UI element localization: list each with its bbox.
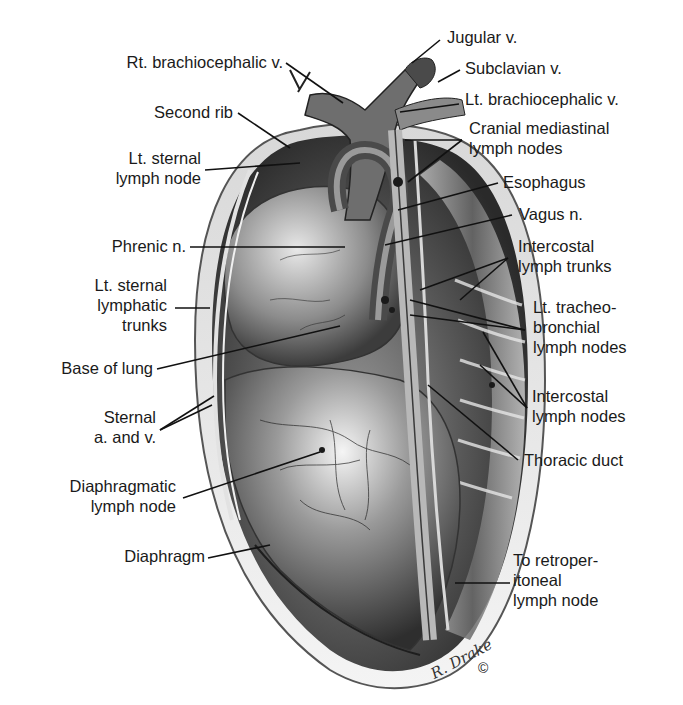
label-lt-sternal-lymphatic-trunks: Lt. sternal lymphatic trunks [95, 275, 167, 335]
label-diaphragmatic-lymph-node: Diaphragmatic lymph node [70, 476, 176, 516]
label-jugular-v: Jugular v. [447, 27, 517, 47]
label-second-rib: Second rib [154, 102, 233, 122]
label-lt-tracheobronchial-lymph-nodes: Lt. tracheo- bronchial lymph nodes [533, 297, 627, 357]
label-subclavian-v: Subclavian v. [465, 58, 562, 78]
copyright-mark: © [478, 658, 488, 678]
label-intercostal-lymph-nodes: Intercostal lymph nodes [532, 386, 626, 426]
label-lt-brachiocephalic-v: Lt. brachiocephalic v. [465, 89, 619, 109]
label-cranial-mediastinal-lymph-nodes: Cranial mediastinal lymph nodes [469, 118, 609, 158]
label-phrenic-n: Phrenic n. [112, 236, 186, 256]
label-base-of-lung: Base of lung [61, 358, 153, 378]
label-thoracic-duct: Thoracic duct [524, 450, 623, 470]
label-rt-brachiocephalic-v: Rt. brachiocephalic v. [126, 52, 283, 72]
label-diaphragm: Diaphragm [124, 546, 205, 566]
label-intercostal-lymph-trunks: Intercostal lymph trunks [518, 236, 612, 276]
label-esophagus: Esophagus [503, 172, 586, 192]
label-vagus-n: Vagus n. [519, 204, 583, 224]
label-to-retroperitoneal-lymph-node: To retroper- itoneal lymph node [513, 550, 598, 610]
label-lt-sternal-lymph-node: Lt. sternal lymph node [116, 148, 201, 188]
label-sternal-a-and-v: Sternal a. and v. [94, 407, 156, 447]
